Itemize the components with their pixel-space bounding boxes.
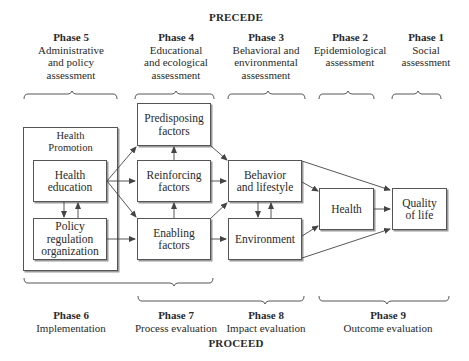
connector-layer — [0, 0, 469, 361]
brace-phase-9 — [319, 296, 449, 304]
brace-phase-1 — [392, 91, 441, 99]
brace-phase-7-8 — [138, 296, 304, 304]
brace-phase-2 — [319, 91, 374, 99]
brace-phase-4 — [135, 91, 214, 99]
brace-phase-3 — [228, 91, 305, 99]
brace-phase-5 — [24, 91, 117, 99]
brace-phase-6 — [24, 278, 213, 286]
